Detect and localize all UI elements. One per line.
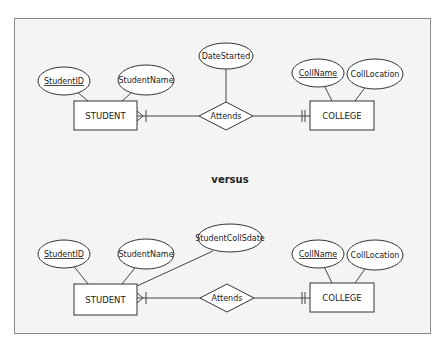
- primary-key-label: StudentID: [44, 250, 84, 259]
- attribute-label: StudentName: [118, 76, 173, 85]
- attribute-connector: [325, 87, 332, 101]
- attribute-studentid[interactable]: StudentID: [38, 240, 90, 268]
- attribute-connector: [122, 268, 135, 284]
- attribute-connector: [355, 88, 365, 101]
- attribute-label: CollLocation: [351, 70, 400, 79]
- primary-key-label: CollName: [299, 69, 338, 78]
- attribute-connector: [74, 267, 88, 284]
- attribute-datestarted[interactable]: DateStarted: [199, 43, 253, 69]
- er-diagram-canvas: versus STUDENTCOLLEGEAttendsStudentIDStu…: [0, 0, 445, 348]
- entity-college[interactable]: COLLEGE: [310, 283, 374, 312]
- entity-label: STUDENT: [85, 295, 126, 305]
- primary-key-label: CollName: [299, 250, 338, 259]
- entity-label: STUDENT: [85, 111, 126, 121]
- relationship-label: Attends: [212, 294, 243, 303]
- attribute-label: StudentCollSdate: [195, 234, 265, 243]
- attribute-collname[interactable]: CollName: [292, 59, 344, 87]
- attribute-label: DateStarted: [202, 52, 251, 61]
- primary-key-label: StudentID: [44, 77, 84, 86]
- entity-student[interactable]: STUDENT: [74, 284, 137, 315]
- attribute-label: StudentName: [118, 250, 173, 259]
- versus-label: versus: [211, 174, 248, 185]
- attribute-connector: [355, 269, 365, 283]
- diagram-1: STUDENTCOLLEGEAttendsStudentIDStudentNam…: [38, 43, 403, 130]
- entity-label: COLLEGE: [322, 293, 361, 303]
- attribute-studentid[interactable]: StudentID: [38, 67, 90, 95]
- attribute-studentcollsdate[interactable]: StudentCollSdate: [195, 224, 265, 252]
- attribute-studentname[interactable]: StudentName: [118, 65, 174, 95]
- attribute-colllocation[interactable]: CollLocation: [347, 59, 403, 89]
- attribute-colllocation[interactable]: CollLocation: [347, 240, 403, 270]
- entity-student[interactable]: STUDENT: [74, 101, 137, 130]
- entity-college[interactable]: COLLEGE: [310, 101, 374, 130]
- relationship-attends[interactable]: Attends: [199, 102, 253, 130]
- attribute-connector: [122, 93, 131, 101]
- attribute-connector: [78, 93, 88, 101]
- attribute-collname[interactable]: CollName: [292, 240, 344, 268]
- diagram-2: STUDENTCOLLEGEAttendsStudentIDStudentNam…: [38, 224, 403, 315]
- entity-label: COLLEGE: [322, 111, 361, 121]
- relationship-label: Attends: [211, 112, 242, 121]
- attribute-label: CollLocation: [351, 251, 400, 260]
- relationship-attends[interactable]: Attends: [200, 284, 254, 312]
- attribute-studentname[interactable]: StudentName: [118, 239, 174, 269]
- attribute-connector: [325, 268, 332, 283]
